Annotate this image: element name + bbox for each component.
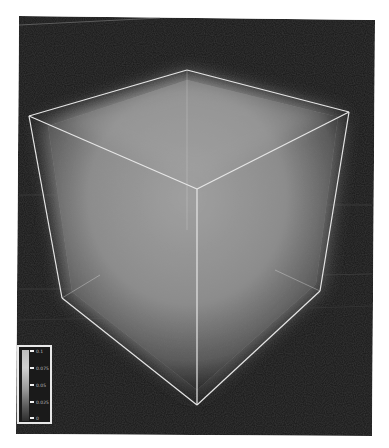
colorbar-tick	[30, 384, 34, 386]
render-viewport[interactable]: 0.1 0.075 0.05 0.025 0	[0, 0, 389, 448]
colorbar-tick	[30, 417, 34, 419]
colorbar-legend: 0.1 0.075 0.05 0.025 0	[17, 345, 52, 424]
colorbar-tick	[30, 350, 34, 352]
colorbar-label: 0.05	[36, 383, 46, 388]
colorbar-tick	[30, 401, 34, 403]
colorbar-label: 0.075	[36, 366, 49, 371]
colorbar-label-max: 0.1	[36, 349, 43, 354]
colorbar-tick	[30, 367, 34, 369]
colorbar-label: 0.025	[36, 400, 49, 405]
colorbar-gradient	[22, 350, 29, 421]
colorbar-label-min: 0	[36, 416, 39, 421]
volume-render-canvas[interactable]	[0, 0, 389, 448]
